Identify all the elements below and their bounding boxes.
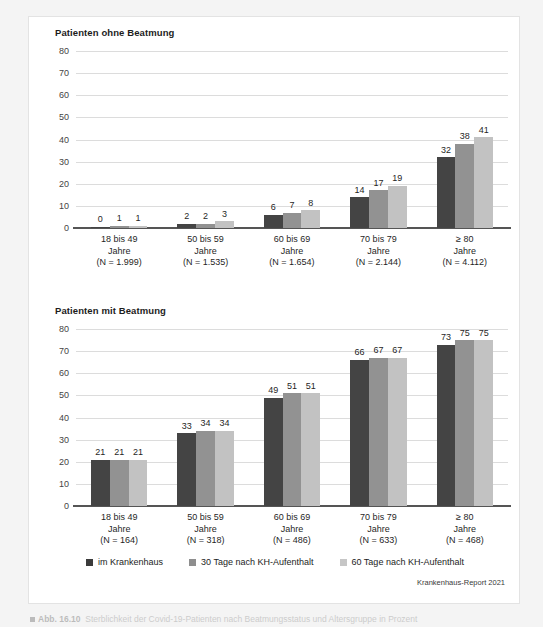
bar-group: 323841≥ 80Jahre(N = 4.112) bbox=[437, 51, 494, 228]
bar-fill bbox=[474, 137, 493, 228]
bar-value-label: 2 bbox=[177, 211, 196, 221]
bar-group: 33343450 bis 59Jahre(N = 318) bbox=[177, 329, 234, 506]
bar-group: 14171970 bis 79Jahre(N = 2.144) bbox=[350, 51, 407, 228]
bar-fill bbox=[474, 340, 493, 506]
bar-fill bbox=[301, 393, 320, 506]
bar-group-bars: 333434 bbox=[177, 329, 234, 506]
legend-item[interactable]: im Krankenhaus bbox=[86, 557, 163, 567]
bar-group-bars: 011 bbox=[91, 51, 148, 228]
bar-fill bbox=[437, 157, 456, 228]
legend-label: im Krankenhaus bbox=[98, 557, 163, 567]
y-axis-tick-label: 80 bbox=[59, 324, 69, 334]
bar-group: 21212118 bis 49Jahre(N = 164) bbox=[91, 329, 148, 506]
figure-card: Patienten ohne Beatmung 8070605040302010… bbox=[28, 16, 520, 604]
x-axis-category-line: (N = 2.144) bbox=[336, 257, 421, 269]
x-axis-category-line: (N = 1.654) bbox=[250, 257, 335, 269]
bar-fill bbox=[196, 224, 215, 228]
caption-square-icon bbox=[30, 617, 35, 622]
bar-group-bars: 737575 bbox=[437, 329, 494, 506]
chart-title-bottom: Patienten mit Beatmung bbox=[55, 305, 166, 316]
y-axis-tick-label: 40 bbox=[59, 413, 69, 423]
bar-value-label: 19 bbox=[388, 173, 407, 183]
x-axis-category-label: 18 bis 49Jahre(N = 164) bbox=[77, 512, 162, 547]
bar-group-bars: 666767 bbox=[350, 329, 407, 506]
y-axis-tick-label: 30 bbox=[59, 157, 69, 167]
figure-page: Patienten ohne Beatmung 8070605040302010… bbox=[0, 0, 543, 627]
bar-value-label: 67 bbox=[388, 345, 407, 355]
bar-value-label: 0 bbox=[91, 214, 110, 224]
legend-label: 30 Tage nach KH-Aufenthalt bbox=[201, 557, 313, 567]
bar-fill bbox=[350, 360, 369, 506]
bar-group: 67860 bis 69Jahre(N = 1.654) bbox=[264, 51, 321, 228]
bar-fill bbox=[110, 460, 129, 506]
x-axis-category-line: Jahre bbox=[250, 524, 335, 536]
bar-value-label: 34 bbox=[215, 418, 234, 428]
source-note: Krankenhaus-Report 2021 bbox=[417, 578, 505, 587]
bar-value-label: 75 bbox=[455, 328, 474, 338]
bar-value-label: 7 bbox=[283, 200, 302, 210]
x-axis-category-label: 60 bis 69Jahre(N = 486) bbox=[250, 512, 335, 547]
bar-value-label: 8 bbox=[301, 198, 320, 208]
bar-value-label: 51 bbox=[283, 381, 302, 391]
bar-value-label: 49 bbox=[264, 385, 283, 395]
bar-value-label: 75 bbox=[474, 328, 493, 338]
bar-value-label: 51 bbox=[301, 381, 320, 391]
x-axis-category-line: 18 bis 49 bbox=[77, 512, 162, 524]
x-axis-category-label: 70 bis 79Jahre(N = 633) bbox=[336, 512, 421, 547]
x-axis-category-line: Jahre bbox=[423, 524, 508, 536]
bar-group-bars: 141719 bbox=[350, 51, 407, 228]
x-axis-category-label: ≥ 80Jahre(N = 468) bbox=[423, 512, 508, 547]
bar-fill bbox=[177, 433, 196, 506]
bar-fill bbox=[110, 226, 129, 228]
y-axis-tick-label: 0 bbox=[64, 223, 69, 233]
x-axis-category-line: 70 bis 79 bbox=[336, 512, 421, 524]
bar-fill bbox=[91, 227, 110, 228]
bar-value-label: 6 bbox=[264, 202, 283, 212]
y-axis-tick-label: 50 bbox=[59, 112, 69, 122]
x-axis-category-line: ≥ 80 bbox=[423, 234, 508, 246]
bar-value-label: 1 bbox=[110, 213, 129, 223]
legend-swatch-icon bbox=[86, 559, 93, 566]
x-axis-category-label: ≥ 80Jahre(N = 4.112) bbox=[423, 234, 508, 269]
bar-group: 49515160 bis 69Jahre(N = 486) bbox=[264, 329, 321, 506]
bar-value-label: 14 bbox=[350, 185, 369, 195]
x-axis-category-line: (N = 318) bbox=[163, 535, 248, 547]
bar-fill bbox=[215, 431, 234, 506]
y-axis-tick-label: 60 bbox=[59, 90, 69, 100]
x-axis-category-label: 70 bis 79Jahre(N = 2.144) bbox=[336, 234, 421, 269]
bar-value-label: 1 bbox=[129, 213, 148, 223]
bar-fill bbox=[177, 224, 196, 228]
bar-value-label: 2 bbox=[196, 211, 215, 221]
bar-value-label: 21 bbox=[110, 447, 129, 457]
x-axis-category-label: 60 bis 69Jahre(N = 1.654) bbox=[250, 234, 335, 269]
x-axis-category-line: ≥ 80 bbox=[423, 512, 508, 524]
y-axis-tick-label: 40 bbox=[59, 135, 69, 145]
chart-panel-ohne-beatmung: Patienten ohne Beatmung 8070605040302010… bbox=[29, 27, 521, 305]
x-axis-category-line: 50 bis 59 bbox=[163, 512, 248, 524]
y-axis-tick-label: 80 bbox=[59, 46, 69, 56]
bar-fill bbox=[388, 358, 407, 506]
legend-item[interactable]: 30 Tage nach KH-Aufenthalt bbox=[189, 557, 313, 567]
x-axis-category-line: 50 bis 59 bbox=[163, 234, 248, 246]
x-axis-category-line: Jahre bbox=[163, 246, 248, 258]
bar-group: 66676770 bis 79Jahre(N = 633) bbox=[350, 329, 407, 506]
bar-fill bbox=[215, 221, 234, 228]
x-axis-category-line: (N = 468) bbox=[423, 535, 508, 547]
x-axis-category-label: 18 bis 49Jahre(N = 1.999) bbox=[77, 234, 162, 269]
bar-group: 737575≥ 80Jahre(N = 468) bbox=[437, 329, 494, 506]
y-axis-tick-label: 10 bbox=[59, 479, 69, 489]
caption-text: Sterblichkeit der Covid-19-Patienten nac… bbox=[85, 614, 417, 624]
x-axis-category-line: Jahre bbox=[77, 246, 162, 258]
bar-value-label: 32 bbox=[437, 145, 456, 155]
x-axis-category-line: Jahre bbox=[336, 524, 421, 536]
x-axis-category-label: 50 bis 59Jahre(N = 1.535) bbox=[163, 234, 248, 269]
bar-value-label: 33 bbox=[177, 421, 196, 431]
bar-fill bbox=[283, 393, 302, 506]
bar-value-label: 38 bbox=[455, 131, 474, 141]
figure-caption: Abb. 16.10 Sterblichkeit der Covid-19-Pa… bbox=[30, 614, 530, 624]
bar-fill bbox=[301, 210, 320, 228]
plot-area-top: 8070605040302010001118 bis 49Jahre(N = 1… bbox=[76, 51, 508, 228]
bar-value-label: 3 bbox=[215, 209, 234, 219]
legend-item[interactable]: 60 Tage nach KH-Aufenthalt bbox=[340, 557, 464, 567]
x-axis-category-label: 50 bis 59Jahre(N = 318) bbox=[163, 512, 248, 547]
